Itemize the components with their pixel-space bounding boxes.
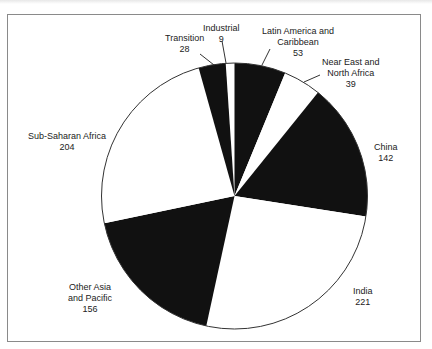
label-latin-america: Latin America and Caribbean 53 <box>262 26 334 59</box>
label-china: China 142 <box>374 142 398 164</box>
label-transition: Transition 28 <box>165 33 204 55</box>
pie-slice-india <box>206 196 366 329</box>
label-india: India 221 <box>353 286 373 308</box>
label-other-asia: Other Asia and Pacific 156 <box>68 282 112 315</box>
pie-slices <box>102 63 368 329</box>
label-sub-saharan-africa: Sub-Saharan Africa 204 <box>28 131 106 153</box>
label-industrial: Industrial 9 <box>203 23 240 45</box>
label-near-east: Near East and North Africa 39 <box>322 57 380 90</box>
leader-line-near-east <box>304 75 320 82</box>
leader-line-transition <box>200 54 214 65</box>
